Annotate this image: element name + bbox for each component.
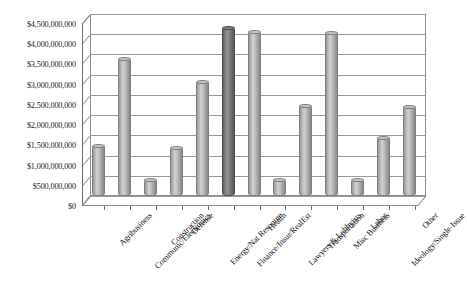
x-tick-label: Agribusiness: [117, 211, 153, 247]
x-tick-label: Health: [266, 211, 288, 233]
x-tick-label: Ideology/Single-Issue: [410, 211, 467, 268]
x-tick-label: Other: [421, 211, 441, 231]
